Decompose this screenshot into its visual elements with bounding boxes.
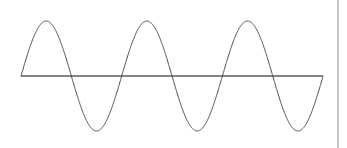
sine-wave-plot (0, 0, 347, 148)
plot-background (0, 0, 347, 148)
sine-wave-canvas (0, 0, 347, 148)
